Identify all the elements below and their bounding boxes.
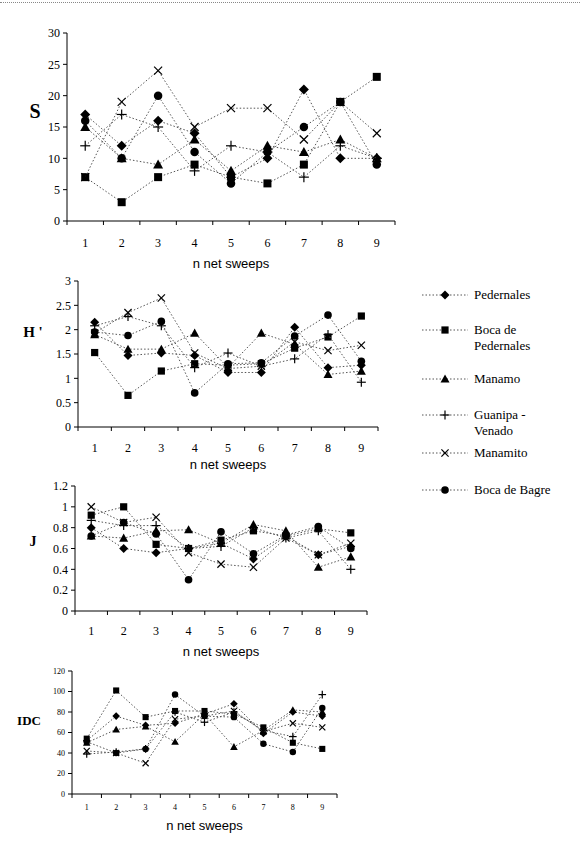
data-point-circle <box>347 545 355 553</box>
legend-label: Guanipa - Venado <box>474 407 564 439</box>
data-point-circle <box>250 550 258 558</box>
x-tick-label: 8 <box>291 803 295 812</box>
data-point-circle <box>300 123 309 132</box>
x-tick-label: 3 <box>144 803 148 812</box>
data-point-square <box>91 349 98 356</box>
x-tick-label: 1 <box>88 624 94 638</box>
x-tick-label: 2 <box>121 624 127 638</box>
data-point-circle <box>87 532 95 540</box>
legend-marker <box>441 375 450 383</box>
series-manamo <box>83 706 326 750</box>
y-tick-label: 20 <box>57 769 65 778</box>
data-point-triangle <box>184 525 193 533</box>
y-tick-label: 2.5 <box>56 299 71 313</box>
data-point-circle <box>291 332 299 340</box>
data-point-circle <box>142 746 148 752</box>
series-line <box>85 71 377 178</box>
data-point-diamond <box>112 712 120 720</box>
x-tick-label: 6 <box>264 236 270 250</box>
data-point-circle <box>91 328 99 336</box>
y-tick-label: 1.5 <box>56 347 71 361</box>
data-point-square <box>358 312 365 319</box>
y-tick-label: 0 <box>54 214 60 228</box>
data-point-cross <box>373 129 381 137</box>
data-point-circle <box>217 528 225 536</box>
data-point-plus <box>289 733 297 741</box>
data-point-circle <box>258 359 266 367</box>
legend-label: Pedernales <box>474 287 564 303</box>
data-point-triangle <box>190 135 200 144</box>
chart-evenness: 00.20.40.60.811.2123456789Jn net sweeps <box>0 475 400 655</box>
legend-label: Manamito <box>474 445 564 461</box>
circle-marker-icon <box>420 482 470 498</box>
x-tick-label: 6 <box>232 803 236 812</box>
series-manamito <box>81 67 381 182</box>
data-point-plus <box>152 521 161 530</box>
data-point-square <box>347 529 354 536</box>
data-point-triangle <box>324 370 333 378</box>
data-point-circle <box>319 705 325 711</box>
data-point-circle <box>315 523 323 531</box>
y-tick-label: 0.8 <box>53 521 68 535</box>
legend-marker <box>441 291 450 300</box>
data-point-circle <box>172 691 178 697</box>
x-tick-label: 4 <box>186 624 192 638</box>
data-point-diamond <box>335 153 345 163</box>
y-tick-label: 0.4 <box>53 563 68 577</box>
data-point-square <box>158 367 165 374</box>
data-point-plus <box>201 718 209 726</box>
x-axis-label: n net sweeps <box>193 256 270 271</box>
y-tick-label: 2 <box>65 323 71 337</box>
y-tick-label: 1 <box>65 372 71 386</box>
data-point-circle <box>113 750 119 756</box>
chart-idc: 020406080100120123456789IDCn net sweeps <box>0 655 400 841</box>
series-line <box>85 89 377 177</box>
legend-item-pedernales: Pedernales <box>420 287 564 303</box>
data-point-circle <box>260 741 266 747</box>
triangle-marker-icon <box>420 371 470 387</box>
data-point-cross <box>154 67 162 75</box>
data-point-cross <box>143 760 149 766</box>
legend-marker <box>441 486 449 494</box>
legend-item-manamito: Manamito <box>420 445 564 461</box>
x-tick-label: 5 <box>225 441 231 455</box>
legend-marker <box>441 326 448 333</box>
data-point-circle <box>117 154 126 163</box>
y-tick-label: 40 <box>57 749 65 758</box>
y-axis-label: IDC <box>17 713 41 728</box>
data-point-triangle <box>346 552 355 560</box>
x-tick-label: 8 <box>315 624 321 638</box>
x-tick-label: 9 <box>348 624 354 638</box>
x-tick-label: 4 <box>192 236 198 250</box>
chart-species-richness: 051015202530123456789Sn net sweeps <box>0 0 400 270</box>
data-point-triangle <box>314 563 323 571</box>
y-axis-label: J <box>30 534 37 549</box>
data-point-diamond <box>119 544 128 553</box>
data-point-square <box>319 746 325 752</box>
data-point-square <box>118 198 126 206</box>
y-tick-label: 0 <box>62 604 68 618</box>
y-tick-label: 10 <box>48 152 60 166</box>
legend-item-boca-de-pedernales: Boca de Pedernales <box>420 322 564 354</box>
x-tick-label: 4 <box>192 441 198 455</box>
data-point-circle <box>152 530 160 538</box>
square-marker-icon <box>420 322 470 338</box>
data-point-circle <box>201 713 207 719</box>
data-point-cross <box>118 98 126 106</box>
data-point-circle <box>290 749 296 755</box>
series-guanipa-venado <box>83 691 326 758</box>
y-tick-label: 0 <box>65 420 71 434</box>
data-point-square <box>300 161 308 169</box>
series-guanipa-venado <box>87 516 356 574</box>
data-point-circle <box>282 531 290 539</box>
y-tick-label: 25 <box>48 58 60 72</box>
y-tick-label: 30 <box>48 26 60 40</box>
x-tick-label: 5 <box>228 236 234 250</box>
data-point-circle <box>190 148 199 157</box>
diamond-marker-icon <box>420 287 470 303</box>
data-point-diamond <box>299 84 309 94</box>
data-point-plus <box>226 141 236 151</box>
y-tick-label: 60 <box>57 728 65 737</box>
data-point-diamond <box>152 548 161 557</box>
legend-item-manamo: Manamo <box>420 371 564 387</box>
